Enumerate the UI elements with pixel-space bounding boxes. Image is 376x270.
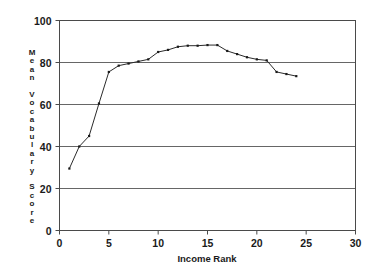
x-tick-label-20: 20 bbox=[251, 237, 263, 249]
data-point-19 bbox=[246, 56, 248, 58]
y-axis-title-char-20: e bbox=[30, 216, 35, 225]
x-tick-label-25: 25 bbox=[300, 237, 312, 249]
data-point-14 bbox=[197, 45, 199, 47]
data-point-3 bbox=[88, 135, 90, 137]
y-tick-label-40: 40 bbox=[40, 141, 52, 153]
data-point-22 bbox=[275, 71, 277, 73]
data-point-12 bbox=[177, 46, 179, 48]
data-point-20 bbox=[256, 58, 258, 60]
x-tick-label-5: 5 bbox=[106, 237, 112, 249]
data-point-5 bbox=[108, 71, 110, 73]
data-point-7 bbox=[127, 62, 129, 64]
x-tick-label-0: 0 bbox=[57, 237, 63, 249]
data-point-11 bbox=[167, 49, 169, 51]
chart-container: 020406080100 051015202530 Income Rank Me… bbox=[0, 0, 376, 270]
data-point-18 bbox=[236, 53, 238, 55]
data-point-15 bbox=[206, 44, 208, 46]
data-point-24 bbox=[295, 75, 297, 77]
data-point-23 bbox=[285, 73, 287, 75]
data-point-13 bbox=[187, 45, 189, 47]
y-tick-label-100: 100 bbox=[34, 15, 52, 27]
y-axis-title-char-3: n bbox=[30, 73, 35, 82]
data-point-21 bbox=[266, 59, 268, 61]
data-point-16 bbox=[216, 44, 218, 46]
x-axis-title: Income Rank bbox=[177, 253, 237, 264]
x-tick-label-30: 30 bbox=[350, 237, 362, 249]
data-point-8 bbox=[137, 60, 139, 62]
vocabulary-income-line-chart: 020406080100 051015202530 Income Rank Me… bbox=[0, 0, 376, 270]
data-point-9 bbox=[147, 58, 149, 60]
data-point-6 bbox=[118, 65, 120, 67]
data-point-4 bbox=[98, 102, 100, 104]
y-tick-label-60: 60 bbox=[40, 99, 52, 111]
data-point-2 bbox=[78, 145, 80, 147]
y-axis-title-char-14: y bbox=[30, 166, 35, 175]
data-point-10 bbox=[157, 51, 159, 53]
y-tick-label-0: 0 bbox=[46, 225, 52, 237]
x-tick-label-10: 10 bbox=[152, 237, 164, 249]
x-tick-label-15: 15 bbox=[202, 237, 214, 249]
y-tick-label-20: 20 bbox=[40, 183, 52, 195]
data-point-1 bbox=[68, 167, 70, 169]
chart-background bbox=[0, 0, 376, 270]
y-tick-label-80: 80 bbox=[40, 57, 52, 69]
data-point-17 bbox=[226, 50, 228, 52]
